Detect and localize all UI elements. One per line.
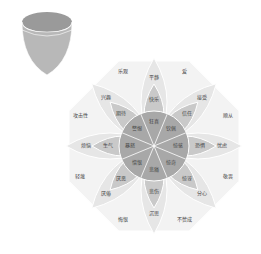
intense-label: 警惕 (132, 125, 142, 132)
basic-label: 惊讶 (182, 175, 192, 182)
mild-label: 厌倦 (101, 190, 111, 197)
dyad-label: 悔恨 (118, 216, 128, 223)
dyad-label: 轻蔑 (75, 173, 85, 180)
basic-label: 恐惧 (195, 142, 205, 149)
dyad-label: 爱 (182, 68, 187, 75)
intense-label: 悲痛 (149, 166, 159, 173)
basic-label: 期待 (116, 110, 126, 117)
mild-label: 忧虑 (217, 142, 227, 149)
dyad-label: 攻击性 (73, 112, 88, 119)
intense-label: 钦佩 (166, 125, 176, 132)
emotion-wheel: 狂喜快乐平静钦佩信任接受惊骇恐惧忧虑惊奇惊讶分心悲痛悲伤沉思憎恨厌恶厌倦暴怒生气… (0, 0, 261, 254)
intense-label: 惊奇 (166, 159, 176, 166)
basic-label: 快乐 (149, 96, 159, 103)
mild-label: 烦恼 (81, 142, 91, 149)
mild-label: 接受 (197, 94, 207, 101)
cone-3d-icon (22, 12, 72, 75)
dyad-label: 顺从 (223, 112, 233, 119)
mild-label: 分心 (197, 190, 207, 197)
mild-label: 平静 (149, 74, 159, 81)
dyad-label: 敬畏 (223, 173, 233, 180)
dyad-label: 不赞成 (177, 216, 192, 223)
basic-label: 厌恶 (116, 175, 126, 182)
dyad-label: 乐观 (118, 68, 128, 75)
intense-label: 狂喜 (149, 118, 159, 125)
mild-label: 沉思 (149, 210, 159, 217)
basic-label: 悲伤 (149, 188, 159, 195)
mild-label: 兴趣 (101, 94, 111, 101)
basic-label: 信任 (182, 110, 192, 117)
intense-label: 惊骇 (173, 142, 183, 149)
intense-label: 暴怒 (125, 142, 135, 148)
basic-label: 生气 (103, 142, 113, 148)
intense-label: 憎恨 (132, 159, 142, 166)
wheel: 狂喜快乐平静钦佩信任接受惊骇恐惧忧虑惊奇惊讶分心悲痛悲伤沉思憎恨厌恶厌倦暴怒生气… (66, 58, 242, 234)
